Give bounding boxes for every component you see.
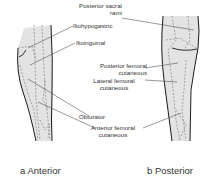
label-line: Lateral femoral: [86, 77, 142, 84]
label-iliohypogastric: Iliohypogastric: [73, 22, 113, 29]
label-line: Posterior sacral: [79, 2, 122, 9]
label-posterior-femoral-cutaneous: Posterior femoral cutaneous: [100, 62, 147, 76]
label-anterior-femoral-cutaneous: Anterior femoral cutaneous: [82, 124, 144, 138]
label-line: cutaneous: [82, 131, 144, 138]
label-posterior-sacral-rami: Posterior sacral rami: [79, 2, 122, 16]
caption-posterior: b Posterior: [147, 165, 193, 176]
caption-anterior: a Anterior: [20, 165, 61, 176]
label-line: Posterior femoral: [100, 62, 147, 69]
label-line: Anterior femoral: [82, 124, 144, 131]
label-ilioinguinal: Ilioinguinal: [76, 39, 105, 46]
posterior-thigh: [162, 16, 199, 141]
label-obturator: Obturator: [79, 113, 105, 120]
label-line: cutaneous: [86, 84, 142, 91]
label-line: cutaneous: [100, 69, 147, 76]
label-line: rami: [79, 9, 122, 16]
label-lateral-femoral-cutaneous: Lateral femoral cutaneous: [86, 77, 142, 91]
